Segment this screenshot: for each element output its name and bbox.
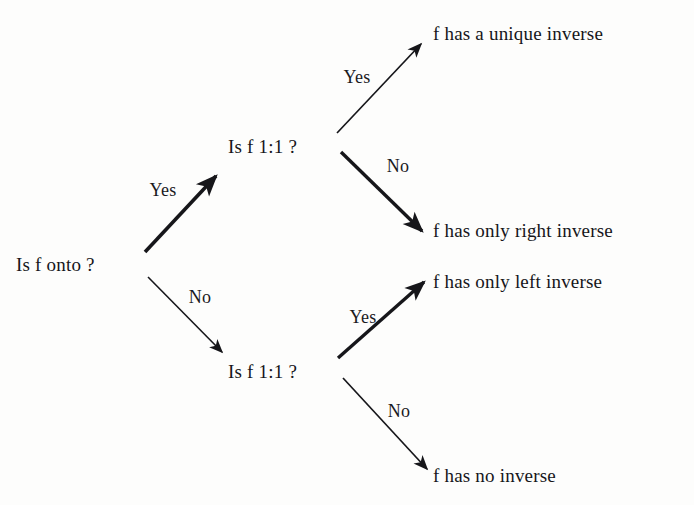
node-leaf-right-inverse: f has only right inverse xyxy=(433,221,613,240)
edge-upper-yes xyxy=(337,44,421,133)
node-leaf-left-inverse: f has only left inverse xyxy=(433,272,602,291)
node-upper-decision: Is f 1:1 ? xyxy=(228,137,297,156)
edge-label-root-no: No xyxy=(189,288,211,306)
edge-label-root-yes: Yes xyxy=(150,181,177,199)
edge-label-upper-no: No xyxy=(387,157,409,175)
node-leaf-no-inverse: f has no inverse xyxy=(433,466,556,485)
node-leaf-unique-inverse: f has a unique inverse xyxy=(433,24,603,43)
node-lower-decision: Is f 1:1 ? xyxy=(228,362,297,381)
edge-label-upper-yes: Yes xyxy=(344,68,371,86)
node-root: Is f onto ? xyxy=(16,255,95,274)
decision-tree-diagram: Is f onto ? Is f 1:1 ? Is f 1:1 ? f has … xyxy=(0,0,694,505)
edge-upper-no xyxy=(341,152,422,231)
edge-label-lower-yes: Yes xyxy=(350,308,377,326)
edge-label-lower-no: No xyxy=(388,402,410,420)
edge-lower-no xyxy=(343,378,427,469)
